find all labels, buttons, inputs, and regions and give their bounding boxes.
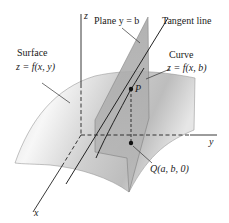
x-axis-label: x xyxy=(33,207,39,218)
surface-equation: z = f(x, y) xyxy=(15,61,56,73)
z-axis-label: z xyxy=(83,10,88,21)
point-p-label: P xyxy=(134,83,141,94)
y-axis-label: y xyxy=(208,136,214,147)
point-q-label: Q(a, b, 0) xyxy=(150,163,190,175)
tangent-line-label: Tangent line xyxy=(162,15,212,26)
point-q xyxy=(129,141,133,145)
point-p xyxy=(129,87,133,91)
curve-equation: z = f(x, b) xyxy=(166,62,207,74)
curve-label: Curve xyxy=(169,49,194,60)
plane-label: Plane y = b xyxy=(94,15,139,26)
surface-label: Surface xyxy=(17,47,48,58)
plane-leader xyxy=(122,28,140,43)
partial-derivative-diagram: z y x Plane y = b Tangent line Curve z =… xyxy=(0,0,229,223)
x-axis xyxy=(33,166,62,212)
